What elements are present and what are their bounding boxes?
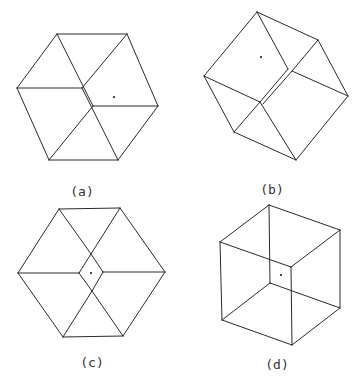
cube-edge xyxy=(63,336,123,337)
cube-wireframe-b xyxy=(204,12,348,160)
panel-label-b: (b) xyxy=(260,182,283,197)
cube-edge xyxy=(257,12,288,69)
cube-edge xyxy=(222,283,270,320)
cube-edge xyxy=(57,34,93,106)
cube-edge xyxy=(59,208,120,209)
cube-drawings-canvas: (a) (b) (c) (d) xyxy=(0,0,359,385)
cube-edge xyxy=(296,96,348,160)
cube-edge xyxy=(91,254,103,272)
panel-label-a: (a) xyxy=(70,184,93,199)
cube-edge xyxy=(17,88,49,160)
cube-edge xyxy=(292,71,348,96)
fixation-dot-d xyxy=(280,274,282,276)
cube-edge xyxy=(79,254,91,273)
cube-edge xyxy=(222,320,292,345)
cube-figure: (a) (b) (c) (d) xyxy=(0,0,359,385)
cube-edge xyxy=(82,34,127,88)
fixation-dot-a xyxy=(113,96,115,98)
cube-edge xyxy=(127,34,158,106)
cube-edge xyxy=(49,106,93,160)
cube-edge xyxy=(257,12,318,40)
cube-edge xyxy=(204,76,260,102)
cube-edge xyxy=(260,102,296,160)
cube-edge xyxy=(17,34,57,88)
cube-edge xyxy=(220,242,291,267)
cube-edge xyxy=(63,291,92,337)
cube-edge xyxy=(234,102,260,132)
cube-edge xyxy=(318,40,348,96)
panel-a: (a) xyxy=(17,34,158,199)
cube-edge xyxy=(263,71,292,104)
cube-edge xyxy=(120,208,165,272)
fixation-dot-c xyxy=(90,272,92,274)
cube-edge xyxy=(92,272,103,291)
cube-edge xyxy=(59,209,91,254)
cube-edge xyxy=(260,69,288,102)
cube-edge xyxy=(82,88,118,160)
cube-edge xyxy=(269,205,270,283)
panel-c: (c) xyxy=(18,208,165,370)
cube-edge xyxy=(270,283,340,308)
cube-edge xyxy=(220,242,222,320)
cube-edge xyxy=(291,230,340,267)
cube-edge xyxy=(292,308,340,345)
cube-edge xyxy=(220,205,269,242)
cube-edge xyxy=(79,273,92,291)
cube-edge xyxy=(92,291,123,336)
cube-edge xyxy=(269,205,340,230)
cube-edge xyxy=(234,132,296,160)
fixation-dot-b xyxy=(260,56,262,58)
cube-edge xyxy=(291,267,292,345)
cube-edge xyxy=(18,209,59,273)
cube-edge xyxy=(204,12,257,76)
cube-edge xyxy=(18,273,63,337)
cube-edge xyxy=(204,76,234,132)
cube-wireframe-a xyxy=(17,34,158,160)
cube-edge xyxy=(123,272,165,336)
cube-edge xyxy=(292,40,318,71)
cube-edge xyxy=(91,208,120,254)
panel-b: (b) xyxy=(204,12,348,197)
panel-label-d: (d) xyxy=(265,357,288,372)
panel-label-c: (c) xyxy=(80,355,103,370)
cube-edge xyxy=(118,106,158,160)
panel-d: (d) xyxy=(220,205,340,372)
